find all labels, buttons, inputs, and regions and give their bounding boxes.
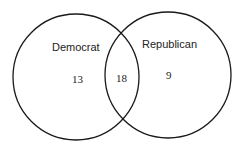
democrat-label: Democrat bbox=[52, 41, 100, 53]
venn-diagram: Democrat Republican 13 18 9 bbox=[0, 0, 241, 145]
democrat-only-count: 13 bbox=[72, 73, 84, 85]
republican-label: Republican bbox=[142, 38, 197, 50]
intersection-count: 18 bbox=[116, 72, 128, 84]
republican-only-count: 9 bbox=[166, 69, 172, 81]
